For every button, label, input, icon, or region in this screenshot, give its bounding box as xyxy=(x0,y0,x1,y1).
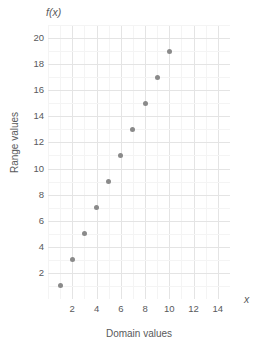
data-point xyxy=(58,283,63,288)
y-tick-label: 6 xyxy=(4,216,44,226)
gridline-vertical xyxy=(157,25,158,299)
data-point xyxy=(155,75,160,80)
gridline-vertical xyxy=(121,25,122,299)
gridline-horizontal xyxy=(48,64,230,65)
gridline-horizontal xyxy=(48,195,230,196)
data-point xyxy=(70,257,75,262)
gridline-horizontal xyxy=(48,142,230,143)
gridline-horizontal xyxy=(48,129,230,130)
x-axis-title: Domain values xyxy=(48,328,230,339)
data-point xyxy=(82,231,87,236)
x-tick-label: 4 xyxy=(85,303,109,314)
gridline-horizontal xyxy=(48,51,230,52)
gridline-horizontal xyxy=(48,221,230,222)
x-tick-label: 8 xyxy=(133,303,157,314)
y-tick-label: 18 xyxy=(4,59,44,69)
gridline-horizontal xyxy=(48,38,230,39)
gridline-horizontal xyxy=(48,247,230,248)
scatter-chart-figure: f(x) 2468101214161820 2468101214 x Domai… xyxy=(0,0,267,348)
y-tick-label: 20 xyxy=(4,33,44,43)
data-point xyxy=(94,205,99,210)
x-tick-label: 10 xyxy=(157,303,181,314)
gridline-horizontal xyxy=(48,116,230,117)
gridline-vertical xyxy=(60,25,61,299)
x-tick-label: 14 xyxy=(206,303,230,314)
data-point xyxy=(118,153,123,158)
data-point xyxy=(143,101,148,106)
y-tick-label: 2 xyxy=(4,268,44,278)
gridline-vertical xyxy=(109,25,110,299)
data-point xyxy=(106,179,111,184)
x-tick-label: 2 xyxy=(60,303,84,314)
gridline-horizontal xyxy=(48,260,230,261)
y-axis-tick-labels: 2468101214161820 xyxy=(0,25,44,299)
gridline-horizontal xyxy=(48,90,230,91)
x-axis-tick-labels: 2468101214 xyxy=(48,303,230,317)
y-tick-label: 4 xyxy=(4,242,44,252)
gridline-vertical xyxy=(206,25,207,299)
gridline-vertical xyxy=(218,25,219,299)
gridline-horizontal xyxy=(48,273,230,274)
gridline-vertical xyxy=(169,25,170,299)
gridline-horizontal xyxy=(48,169,230,170)
gridline-horizontal xyxy=(48,155,230,156)
gridline-vertical xyxy=(84,25,85,299)
gridline-vertical xyxy=(145,25,146,299)
gridline-horizontal xyxy=(48,103,230,104)
gridline-vertical xyxy=(97,25,98,299)
plot-area xyxy=(48,25,230,299)
gridline-vertical xyxy=(181,25,182,299)
gridline-vertical xyxy=(48,25,49,299)
gridline-horizontal xyxy=(48,25,230,26)
gridline-vertical xyxy=(133,25,134,299)
gridline-horizontal xyxy=(48,286,230,287)
data-point xyxy=(130,127,135,132)
gridline-horizontal xyxy=(48,208,230,209)
function-label: f(x) xyxy=(46,6,61,18)
gridline-horizontal xyxy=(48,234,230,235)
gridline-horizontal xyxy=(48,182,230,183)
gridline-horizontal xyxy=(48,77,230,78)
x-tick-label: 6 xyxy=(109,303,133,314)
x-tick-label: 12 xyxy=(182,303,206,314)
gridline-vertical xyxy=(194,25,195,299)
data-point xyxy=(167,49,172,54)
y-axis-title: Range values xyxy=(9,83,20,203)
x-axis-symbol: x xyxy=(244,293,249,305)
